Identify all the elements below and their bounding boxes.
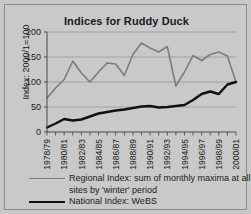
svg-text:2000/01: 2000/01 [231, 139, 241, 170]
y-tick-labels: 050100150200 [26, 27, 41, 137]
chart-legend: Regional Index: sum of monthly maxima at… [27, 173, 251, 208]
legend-label-regional-line1: Regional Index: sum of monthly maxima at… [69, 173, 251, 183]
svg-text:1982/83: 1982/83 [77, 139, 87, 170]
legend-swatch-national-icon [29, 201, 65, 203]
svg-text:1996/97: 1996/97 [197, 139, 207, 170]
svg-text:200: 200 [26, 27, 41, 37]
svg-text:150: 150 [26, 52, 41, 62]
svg-text:0: 0 [36, 127, 41, 137]
svg-text:1986/87: 1986/87 [111, 139, 121, 170]
svg-text:1984/85: 1984/85 [94, 139, 104, 170]
legend-label-regional-line2: sites by 'winter' period [69, 185, 157, 195]
svg-text:100: 100 [26, 77, 41, 87]
svg-text:1998/99: 1998/99 [214, 139, 224, 170]
legend-item-national: National Index: WeBS [27, 196, 251, 208]
svg-text:1990/91: 1990/91 [145, 139, 155, 170]
data-series [47, 43, 236, 128]
legend-swatch-regional-icon [29, 178, 65, 179]
svg-text:1980/81: 1980/81 [59, 139, 69, 170]
svg-text:1994/95: 1994/95 [180, 139, 190, 170]
svg-text:50: 50 [31, 102, 41, 112]
gridlines [44, 32, 236, 132]
svg-text:1978/79: 1978/79 [42, 139, 52, 170]
legend-label-national: National Index: WeBS [69, 196, 157, 206]
x-tick-marks [47, 132, 236, 136]
legend-label-regional-line2-row: sites by 'winter' period [27, 185, 251, 197]
x-tick-labels: 1978/791980/811982/831984/851986/871988/… [42, 139, 241, 170]
svg-text:1992/93: 1992/93 [162, 139, 172, 170]
chart-frame: Indices for Ruddy Duck Index: 2000/1=100… [4, 4, 247, 210]
svg-text:1988/89: 1988/89 [128, 139, 138, 170]
legend-item-regional: Regional Index: sum of monthly maxima at… [27, 173, 251, 185]
